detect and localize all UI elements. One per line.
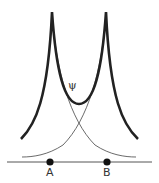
diagram-canvas: ψ A B	[0, 0, 159, 183]
atom-a-label: A	[46, 167, 54, 178]
psi-label: ψ	[68, 80, 77, 91]
nucleus-b-dot	[103, 158, 110, 165]
wavefunction-diagram	[0, 0, 159, 183]
atom-b-label: B	[103, 167, 111, 178]
nucleus-a-dot	[46, 158, 53, 165]
combined-wavefunction-curve	[21, 12, 138, 139]
